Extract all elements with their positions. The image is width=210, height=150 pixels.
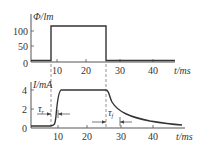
x-tick: 20 [81, 65, 91, 76]
current-plot: I/mA 4 2 0 10 20 30 40 t/ms τr τf [22, 79, 193, 142]
figure: Φ/lm 100 50 0 10 20 30 40 t/ms I/mA 4 2 … [0, 0, 210, 150]
y-tick: 100 [13, 26, 28, 37]
y-axis-label: Φ/lm [33, 11, 53, 22]
x-tick: 40 [148, 65, 158, 76]
y-tick: 0 [22, 123, 27, 134]
y-tick: 4 [22, 85, 27, 96]
x-axis-label: t/ms [174, 65, 191, 76]
y-tick: 50 [18, 41, 28, 52]
x-tick: 30 [115, 65, 125, 76]
y-tick: 0 [23, 58, 28, 69]
x-axis-label: t/ms [176, 131, 193, 142]
flux-line [31, 26, 175, 61]
x-tick: 40 [148, 131, 158, 142]
x-tick: 10 [52, 65, 62, 76]
current-line [31, 90, 182, 126]
tau-r-label: τr [38, 103, 45, 115]
y-axis-label: I/mA [32, 79, 53, 90]
y-tick: 2 [22, 104, 27, 115]
x-tick: 20 [82, 131, 92, 142]
tau-f-label: τf [108, 107, 115, 119]
x-tick: 30 [116, 131, 126, 142]
flux-plot: Φ/lm 100 50 0 10 20 30 40 t/ms [13, 11, 191, 76]
x-tick: 10 [53, 131, 63, 142]
